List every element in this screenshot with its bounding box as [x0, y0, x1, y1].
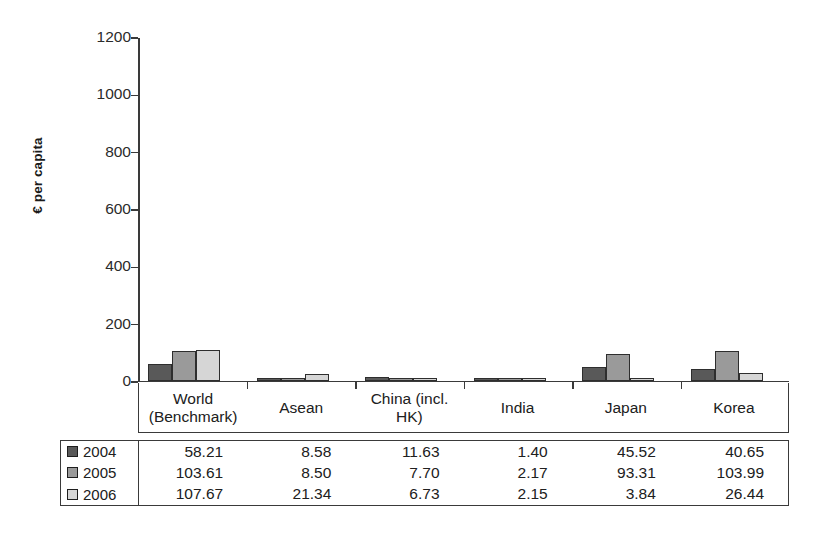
y-axis-line [138, 38, 140, 382]
category-label: World(Benchmark) [139, 383, 247, 432]
y-tick-mark [131, 267, 138, 269]
bar-2005 [389, 378, 413, 381]
bar-chart-figure: € per capita 020040060080010001200 World… [0, 0, 817, 539]
legend-swatch-icon [67, 446, 78, 457]
y-tick-label: 1000 [97, 85, 131, 103]
bar-2005 [498, 378, 522, 381]
bar-group [257, 37, 329, 381]
bar-2004 [148, 364, 172, 381]
table-cell-value: 26.44 [680, 485, 788, 503]
bar-2004 [365, 377, 389, 380]
bar-2006 [413, 378, 437, 381]
bar-2005 [715, 351, 739, 381]
table-row: 200458.218.5811.631.4045.5240.65 [61, 441, 788, 462]
table-cell-value: 2.17 [464, 464, 572, 482]
y-tick-label: 200 [105, 315, 131, 333]
table-cell-value: 7.70 [355, 464, 463, 482]
category-label-line: HK) [371, 408, 449, 425]
category-label: Asean [247, 383, 355, 432]
legend-entry-2004: 2004 [61, 441, 139, 462]
category-label-line: World [149, 390, 238, 407]
bar-2004 [582, 367, 606, 380]
table-row: 2005103.618.507.702.1793.31103.99 [61, 462, 788, 483]
y-tick-mark [131, 324, 138, 326]
category-label: Korea [680, 383, 788, 432]
y-tick-label: 600 [105, 200, 131, 218]
legend-swatch-icon [67, 467, 78, 478]
legend-entry-2006: 2006 [61, 484, 139, 505]
bar-2006 [196, 350, 220, 381]
bar-2004 [257, 378, 281, 381]
category-label-text: World(Benchmark) [149, 390, 238, 425]
bar-2005 [172, 351, 196, 381]
bar-group [365, 37, 437, 381]
category-label: India [464, 383, 572, 432]
table-cell-value: 6.73 [355, 485, 463, 503]
bar-2006 [522, 378, 546, 381]
table-cell-value: 40.65 [680, 443, 788, 461]
legend-swatch-icon [67, 489, 78, 500]
category-label-strip: World(Benchmark)AseanChina (incl.HK)Indi… [138, 383, 789, 433]
bar-2006 [630, 378, 654, 381]
y-tick-mark [131, 381, 138, 383]
legend-label: 2004 [83, 443, 116, 460]
table-cell-value: 3.84 [572, 485, 680, 503]
bar-2006 [739, 373, 763, 381]
legend-entry-2005: 2005 [61, 462, 139, 483]
bar-group [148, 37, 220, 381]
y-tick-mark [131, 37, 138, 39]
bar-2005 [281, 378, 305, 381]
y-tick-mark [131, 152, 138, 154]
category-label-line: Japan [605, 399, 647, 416]
table-cell-value: 58.21 [139, 443, 247, 461]
category-label-line: (Benchmark) [149, 408, 238, 425]
y-tick-label: 0 [122, 372, 131, 390]
category-label-text: Asean [279, 399, 323, 416]
table-cell-value: 103.61 [139, 464, 247, 482]
table-cell-value: 45.52 [572, 443, 680, 461]
y-tick-label: 400 [105, 257, 131, 275]
category-label: China (incl.HK) [355, 383, 463, 432]
bar-2005 [606, 354, 630, 381]
table-cell-value: 107.67 [139, 485, 247, 503]
table-cell-value: 11.63 [355, 443, 463, 461]
table-cell-value: 103.99 [680, 464, 788, 482]
bar-2004 [691, 369, 715, 381]
bar-group [691, 37, 763, 381]
y-tick-mark [131, 209, 138, 211]
table-cell-value: 1.40 [464, 443, 572, 461]
y-axis-title: € per capita [30, 101, 45, 251]
category-label: Japan [572, 383, 680, 432]
data-table: 200458.218.5811.631.4045.5240.652005103.… [60, 440, 789, 506]
legend-label: 2006 [83, 486, 116, 503]
bar-2006 [305, 374, 329, 380]
legend-label: 2005 [83, 464, 116, 481]
table-cell-value: 21.34 [247, 485, 355, 503]
table-row: 2006107.6721.346.732.153.8426.44 [61, 484, 788, 505]
y-tick-mark [131, 95, 138, 97]
table-cell-value: 2.15 [464, 485, 572, 503]
category-label-text: Korea [713, 399, 754, 416]
category-label-line: Asean [279, 399, 323, 416]
plot-area: 020040060080010001200 [138, 38, 789, 382]
category-label-line: India [501, 399, 535, 416]
table-cell-value: 93.31 [572, 464, 680, 482]
table-cell-value: 8.50 [247, 464, 355, 482]
category-label-text: India [501, 399, 535, 416]
category-label-line: China (incl. [371, 390, 449, 407]
category-label-text: China (incl.HK) [371, 390, 449, 425]
category-label-text: Japan [605, 399, 647, 416]
category-label-line: Korea [713, 399, 754, 416]
table-cell-value: 8.58 [247, 443, 355, 461]
bar-group [474, 37, 546, 381]
bar-group [582, 37, 654, 381]
y-tick-label: 1200 [97, 28, 131, 46]
y-tick-label: 800 [105, 143, 131, 161]
bar-2004 [474, 378, 498, 381]
